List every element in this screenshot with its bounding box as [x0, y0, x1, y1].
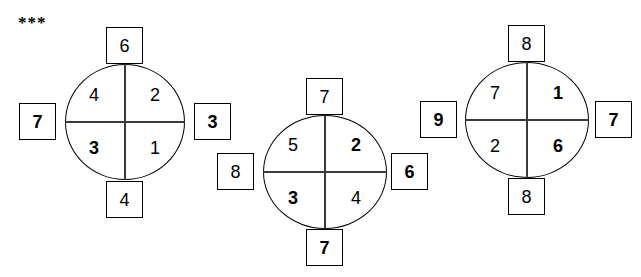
- puzzle-3-quadrant-top-left: 7: [476, 84, 514, 102]
- puzzle-2-quadrant-top-right: 2: [337, 136, 375, 154]
- puzzle-1-outer-right[interactable]: 3: [194, 103, 231, 140]
- puzzle-3-quadrant-top-right: 1: [539, 84, 577, 102]
- puzzle-3-outer-left[interactable]: 9: [420, 101, 457, 138]
- puzzle-1-quadrant-bottom-left: 3: [75, 139, 113, 157]
- puzzle-2-horizontal-divider: [263, 171, 387, 172]
- puzzle-3-outer-bottom[interactable]: 8: [508, 178, 545, 215]
- puzzle-2-outer-right[interactable]: 6: [391, 153, 428, 190]
- puzzle-2-quadrant-bottom-right: 4: [337, 189, 375, 207]
- puzzle-1-outer-top[interactable]: 6: [106, 27, 143, 64]
- puzzle-2-quadrant-top-left: 5: [274, 136, 312, 154]
- puzzle-1-quadrant-top-left: 4: [75, 86, 113, 104]
- puzzle-2-outer-top[interactable]: 7: [306, 78, 343, 115]
- asterisk-marker: ***: [18, 14, 47, 31]
- puzzle-2-outer-left[interactable]: 8: [217, 153, 254, 190]
- puzzle-1-outer-bottom[interactable]: 4: [106, 181, 143, 218]
- puzzle-2-quadrant-bottom-left: 3: [274, 189, 312, 207]
- puzzle-3-quadrant-bottom-right: 6: [539, 137, 577, 155]
- puzzle-1-outer-left[interactable]: 7: [19, 103, 56, 140]
- puzzle-3-horizontal-divider: [465, 119, 589, 120]
- worksheet-canvas: *** 4 2 3 1 6 3 4 7 5 2 3 4 7 6 7 8 7 1 …: [0, 0, 641, 277]
- puzzle-3-outer-right[interactable]: 7: [595, 101, 632, 138]
- puzzle-3-quadrant-bottom-left: 2: [476, 137, 514, 155]
- puzzle-1-quadrant-bottom-right: 1: [136, 139, 174, 157]
- puzzle-2-outer-bottom[interactable]: 7: [306, 229, 343, 266]
- puzzle-1-quadrant-top-right: 2: [136, 86, 174, 104]
- puzzle-1-horizontal-divider: [65, 121, 185, 122]
- puzzle-3-outer-top[interactable]: 8: [508, 25, 545, 62]
